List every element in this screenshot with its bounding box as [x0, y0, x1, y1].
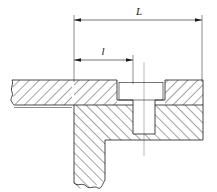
dimension-L-label: L: [135, 5, 142, 17]
upper-plate-section: [8, 78, 207, 108]
dimension-l-arrow-right: [126, 58, 133, 62]
upper-plate-hatch-middle: [72, 78, 122, 108]
lower-block-hatch: [72, 103, 205, 192]
lower-block-section: [72, 103, 205, 192]
upper-plate-hatch-left: [8, 78, 78, 108]
dimension-L-arrow-right: [195, 18, 202, 22]
dimension-L-arrow-left: [74, 18, 81, 22]
cross-section-drawing: L l: [0, 0, 217, 192]
bolt-head-outline: [119, 83, 163, 101]
dimension-l: l: [74, 45, 133, 84]
counterbore-recess: [117, 80, 165, 100]
technical-drawing-canvas: L l: [0, 0, 217, 192]
upper-plate-hatch-right: [163, 78, 207, 108]
dimension-l-label: l: [101, 45, 104, 57]
dimension-l-arrow-left: [74, 58, 81, 62]
dimension-L: L: [74, 5, 202, 82]
